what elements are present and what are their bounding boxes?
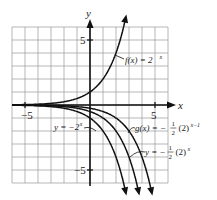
y-axis-arrow-icon (87, 19, 94, 28)
curve-label-exponent: x−1 (189, 122, 200, 128)
curve-label-text: y = − (144, 147, 166, 157)
fraction-denominator: 2 (171, 129, 175, 137)
y-tick-label: 5 (80, 34, 86, 46)
curve-label-text: f(x) = 2 (125, 55, 153, 65)
curve-label-exponent: x (187, 146, 191, 152)
x-axis-arrow-icon (167, 102, 176, 109)
x-axis-label: x (177, 99, 183, 111)
x-tick-label: 5 (151, 109, 157, 121)
curve-label-base: (2) (176, 147, 187, 157)
curve-label-base: (2) (178, 123, 189, 133)
curve-arrow-icon (121, 187, 128, 196)
curve-label-1: y = −2x (53, 121, 83, 132)
curve-arrow-icon (147, 187, 154, 196)
curve-label-exponent: x (79, 121, 83, 127)
leader-line (130, 152, 145, 157)
curve-label-3: y = −12(2)x (144, 144, 191, 161)
curve-label-2: g(x) = −12(2)x−1 (135, 120, 200, 137)
curve-label-text: g(x) = − (135, 123, 166, 133)
curve-label-text: y = −2 (53, 122, 80, 132)
x-tick-label: −5 (21, 109, 33, 121)
fraction-numerator: 1 (171, 120, 175, 128)
exponential-graph: x y −555−5 f(x) = 2xy = −2xg(x) = −12(2)… (0, 0, 217, 200)
curve-arrow-icon (121, 15, 128, 24)
y-axis-label: y (85, 7, 91, 19)
curve-label-0: f(x) = 2x (125, 54, 162, 65)
fraction-denominator: 2 (169, 153, 173, 161)
fraction-numerator: 1 (169, 144, 173, 152)
curve-label-exponent: x (158, 54, 162, 60)
y-tick-label: −5 (74, 164, 86, 176)
curve-arrow-icon (134, 187, 141, 196)
